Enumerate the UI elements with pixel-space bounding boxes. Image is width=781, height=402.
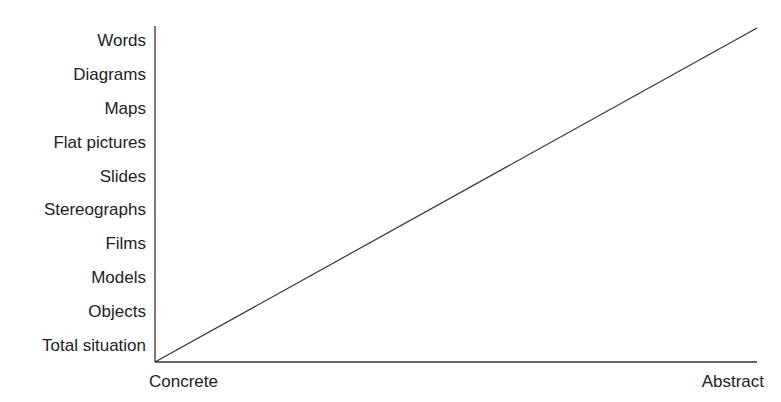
chart: Total situationObjectsModelsFilmsStereog… [0, 0, 781, 402]
y-tick-label: Slides [100, 167, 146, 186]
y-tick-label: Words [97, 31, 146, 50]
x-axis-labels: ConcreteAbstract [149, 372, 764, 391]
y-tick-label: Diagrams [73, 65, 146, 84]
y-tick-label: Objects [88, 302, 146, 321]
series-group [155, 28, 757, 362]
x-tick-label: Abstract [702, 372, 765, 391]
y-tick-label: Flat pictures [53, 133, 146, 152]
y-tick-label: Films [105, 234, 146, 253]
y-axis-labels: Total situationObjectsModelsFilmsStereog… [42, 31, 146, 355]
series-line [155, 28, 757, 362]
y-tick-label: Models [91, 268, 146, 287]
x-tick-label: Concrete [149, 372, 218, 391]
y-tick-label: Stereographs [44, 200, 146, 219]
y-tick-label: Total situation [42, 336, 146, 355]
y-tick-label: Maps [104, 99, 146, 118]
